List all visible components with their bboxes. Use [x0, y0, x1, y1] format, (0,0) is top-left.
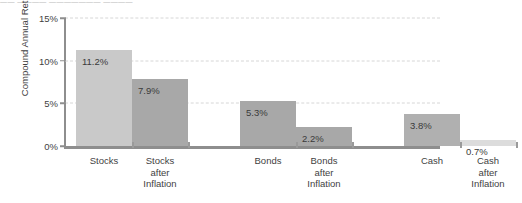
x-category-label-line: Cash — [448, 155, 522, 167]
bar-value-label: 3.8% — [410, 121, 432, 131]
x-category-label: CashafterInflation — [448, 155, 522, 190]
x-category-label-line: Inflation — [448, 178, 522, 190]
x-tick-mark — [132, 142, 134, 148]
y-tick-label: 0% — [44, 141, 58, 152]
x-category-label-line: Inflation — [284, 178, 364, 190]
bar-value-label: 7.9% — [138, 86, 160, 96]
y-tick-label: 15% — [39, 13, 58, 24]
x-tick-mark — [188, 142, 190, 148]
gridline — [65, 18, 440, 19]
bar-value-label: 5.3% — [246, 108, 268, 118]
x-category-label-line: Bonds — [284, 155, 364, 167]
bar-value-label: 2.2% — [302, 134, 324, 144]
y-tick-mark — [60, 17, 66, 19]
y-tick-mark — [60, 60, 66, 62]
x-tick-mark — [516, 142, 518, 148]
y-tick-mark — [60, 103, 66, 105]
y-axis-title: Compound Annual Return — [19, 0, 30, 112]
x-axis-spine — [64, 146, 440, 149]
x-category-label-line: after — [448, 167, 522, 179]
x-tick-mark — [460, 142, 462, 148]
bar-value-label: 11.2% — [82, 57, 108, 67]
y-tick-mark — [60, 145, 66, 147]
plot-area: 0%5%10%15% 11.2%7.9%5.3%2.2%3.8%0.7% — [64, 18, 440, 146]
x-category-label-line: after — [284, 167, 364, 179]
x-category-label-line: Stocks — [120, 155, 200, 167]
x-category-label-line: after — [120, 167, 200, 179]
y-tick-label: 5% — [44, 98, 58, 109]
x-category-label: BondsafterInflation — [284, 155, 364, 190]
x-tick-mark — [296, 142, 298, 148]
x-tick-mark — [352, 142, 354, 148]
x-category-label-line: Inflation — [120, 178, 200, 190]
x-category-label: StocksafterInflation — [120, 155, 200, 190]
y-axis-spine — [64, 18, 66, 146]
y-tick-label: 10% — [39, 55, 58, 66]
